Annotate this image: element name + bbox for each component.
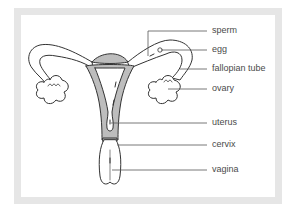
label-egg: egg: [212, 44, 227, 54]
label-uterus: uterus: [212, 117, 237, 127]
label-ovary: ovary: [212, 83, 234, 93]
label-sperm: sperm: [212, 25, 237, 35]
right-fallopian-tube: [128, 40, 192, 80]
uterine-fundus: [92, 54, 128, 64]
label-vagina: vagina: [212, 164, 239, 174]
egg-cell: [158, 48, 162, 52]
right-ovary: [148, 76, 180, 104]
label-cervix: cervix: [212, 139, 236, 149]
reproductive-system-illustration: [0, 0, 296, 213]
label-fallopian-tube: fallopian tube: [212, 63, 266, 73]
left-ovary: [36, 76, 68, 104]
